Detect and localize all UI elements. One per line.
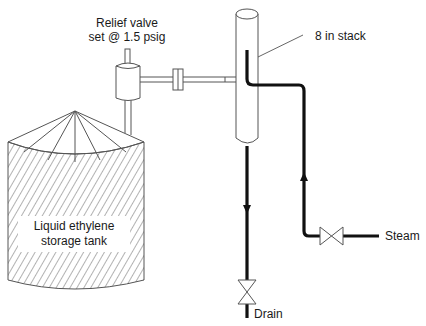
storage-tank [8,111,144,289]
tank-label-line1: Liquid ethylene [34,219,115,233]
drain-valve [238,280,256,304]
process-diagram: Relief valve set @ 1.5 psig 8 in stack L… [0,0,426,326]
valve-to-stack-pipe [140,69,236,90]
steam-label: Steam [385,229,420,243]
tank-label-line2: storage tank [41,234,108,248]
drain-label: Drain [254,307,283,321]
relief-valve-label-line2: set @ 1.5 psig [89,30,166,44]
steam-valve [320,227,343,245]
relief-valve-label-line1: Relief valve [96,16,158,30]
flow-arrow-down-icon [243,205,251,214]
stack-leader-line [258,35,303,57]
steam-line [247,50,379,236]
relief-valve [116,49,140,101]
flow-arrow-up-icon [300,172,308,181]
stack-label: 8 in stack [315,29,367,43]
